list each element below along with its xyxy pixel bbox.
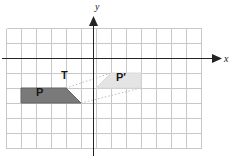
image-label-p-prime: P′ [116, 72, 126, 83]
preimage-shape-p [21, 88, 81, 103]
preimage-label-p: P [36, 87, 43, 98]
translation-vector-label-t: T [61, 70, 68, 81]
x-axis-label: x [224, 54, 228, 64]
x-axis-arrowhead [212, 54, 222, 63]
y-axis-arrowhead [89, 16, 98, 26]
y-axis-label: y [95, 2, 99, 12]
coordinate-plane-figure: y x P T P′ [0, 0, 232, 161]
